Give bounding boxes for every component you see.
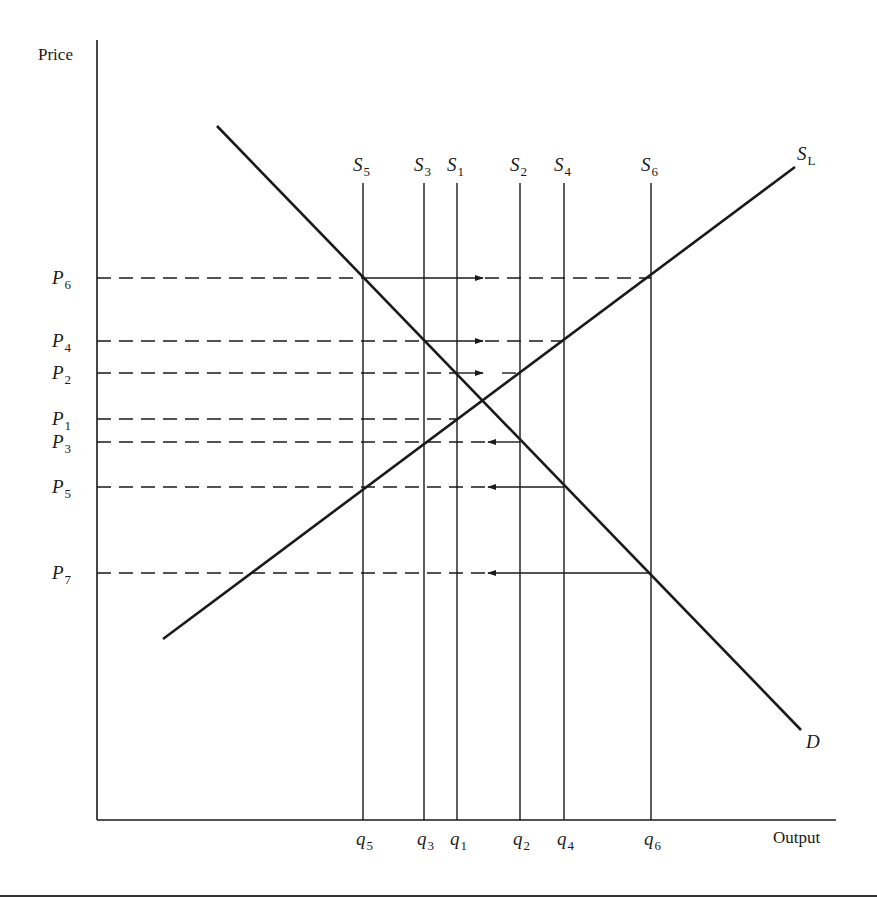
quantity-label-q3: q3 bbox=[417, 828, 434, 853]
curves bbox=[163, 126, 801, 730]
long-run-supply-label: SL bbox=[797, 143, 816, 168]
price-label-p5: P5 bbox=[51, 476, 71, 501]
price-label-p3: P3 bbox=[51, 431, 71, 456]
price-label-p1: P1 bbox=[51, 408, 71, 433]
x-axis-label: Output bbox=[773, 828, 821, 847]
supply-label-s1: S1 bbox=[447, 154, 464, 179]
long-run-supply-curve bbox=[163, 167, 795, 639]
price-guide-lines bbox=[97, 278, 651, 573]
demand-label: D bbox=[805, 731, 820, 752]
supply-label-s2: S2 bbox=[510, 154, 527, 179]
supply-demand-diagram: PriceOutput S5q5S3q3S1q1S2q2S4q4S6q6P6P4… bbox=[0, 0, 877, 898]
quantity-label-q1: q1 bbox=[450, 828, 467, 853]
supply-label-s4: S4 bbox=[554, 154, 572, 179]
quantity-label-q5: q5 bbox=[356, 828, 373, 853]
supply-label-s6: S6 bbox=[641, 154, 659, 179]
quantity-label-q4: q4 bbox=[557, 828, 575, 853]
price-label-p7: P7 bbox=[51, 562, 72, 587]
price-label-p2: P2 bbox=[51, 362, 71, 387]
price-label-p6: P6 bbox=[51, 267, 72, 292]
demand-curve bbox=[217, 126, 801, 730]
quantity-label-q6: q6 bbox=[644, 828, 662, 853]
supply-label-s3: S3 bbox=[414, 154, 431, 179]
axes: PriceOutput bbox=[0, 40, 877, 896]
price-label-p4: P4 bbox=[51, 330, 72, 355]
labels: S5q5S3q3S1q1S2q2S4q4S6q6P6P4P2P1P3P5P7DS… bbox=[51, 143, 820, 853]
y-axis-label: Price bbox=[38, 45, 73, 64]
supply-label-s5: S5 bbox=[353, 154, 370, 179]
quantity-label-q2: q2 bbox=[513, 828, 530, 853]
